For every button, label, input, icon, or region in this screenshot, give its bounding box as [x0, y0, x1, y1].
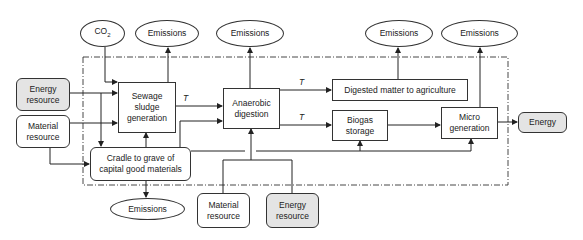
line2: digestion: [234, 109, 268, 120]
line1: Micro: [459, 112, 480, 123]
emissions-label: Emissions: [128, 204, 167, 215]
material-resource-bottom-node: Material resource: [197, 193, 250, 228]
anaerobic-digestion-node: Anaerobic digestion: [223, 88, 280, 129]
co2-label: CO2: [94, 26, 110, 41]
line1: Anaerobic: [232, 98, 270, 109]
energy-output-node: Energy: [518, 112, 567, 133]
cradle-to-grave-node: Cradle to grave of capital good material…: [90, 147, 191, 181]
line2: resource: [276, 211, 309, 222]
emissions-digested-node: Emissions: [365, 20, 433, 47]
biogas-storage-node: Biogas storage: [332, 110, 388, 141]
edge-label-t: T: [299, 77, 304, 87]
emissions-label: Emissions: [148, 28, 187, 39]
emissions-cradle-node: Emissions: [110, 198, 185, 220]
edge-label-t: T: [183, 93, 188, 103]
digested-matter-node: Digested matter to agriculture: [332, 79, 468, 101]
sewage-sludge-generation-node: Sewage sludge generation: [118, 82, 176, 133]
line2: capital good materials: [99, 164, 182, 175]
line2: resource: [26, 132, 59, 143]
emissions-label: Emissions: [231, 28, 270, 39]
line1: Cradle to grave of: [107, 153, 175, 164]
line1: Energy: [279, 200, 306, 211]
line1: Energy: [30, 84, 57, 95]
energy-resource-left-node: Energy resource: [16, 78, 70, 111]
emissions-sewage-node: Emissions: [135, 20, 199, 47]
emissions-label: Emissions: [460, 28, 499, 39]
line2: resource: [26, 95, 59, 106]
micro-generation-node: Micro generation: [441, 107, 498, 139]
line1: Material: [208, 200, 238, 211]
co2-node: CO2: [80, 20, 125, 47]
label: Digested matter to agriculture: [344, 85, 456, 96]
line3: generation: [127, 113, 167, 124]
line2: storage: [346, 126, 374, 137]
energy-resource-bottom-node: Energy resource: [266, 193, 319, 228]
emissions-label: Emissions: [380, 28, 419, 39]
line2: sludge: [134, 102, 159, 113]
edge-label-t: T: [299, 112, 304, 122]
emissions-micro-node: Emissions: [441, 20, 518, 47]
material-resource-left-node: Material resource: [16, 115, 70, 148]
line2: generation: [449, 123, 489, 134]
line1: Sewage: [132, 91, 163, 102]
emissions-anaerobic-node: Emissions: [216, 20, 284, 47]
line1: Material: [28, 121, 58, 132]
line1: Biogas: [347, 115, 373, 126]
line2: resource: [207, 211, 240, 222]
label: Energy: [529, 117, 556, 128]
